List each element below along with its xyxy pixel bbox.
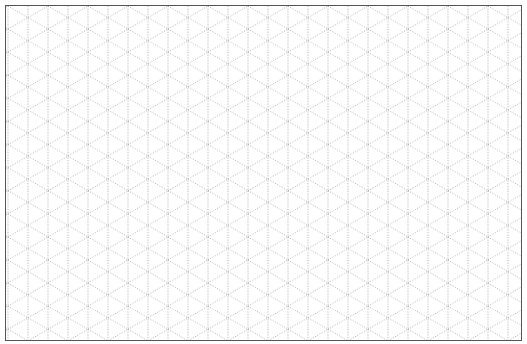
grid-icon xyxy=(6,6,521,340)
isometric-grid-sheet xyxy=(5,5,522,341)
